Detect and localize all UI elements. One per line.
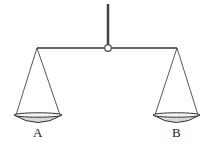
left-pan-string <box>16 48 37 115</box>
pan-a <box>14 113 62 123</box>
right-pan-string <box>155 48 177 115</box>
pan-b-label: B <box>172 125 181 140</box>
left-pan-string <box>37 48 60 115</box>
pivot-icon <box>105 45 112 52</box>
right-pan-string <box>177 48 198 115</box>
pan-b <box>153 113 200 123</box>
balance-scale-diagram: A B <box>0 0 215 152</box>
pan-a-label: A <box>33 125 43 140</box>
